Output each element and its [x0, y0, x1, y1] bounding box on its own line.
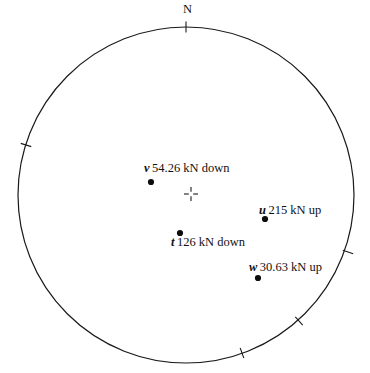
azimuth-tick-group — [21, 22, 353, 359]
data-point-dot-v[interactable] — [148, 179, 154, 185]
data-point-value-v: 54.26 kN down — [152, 161, 229, 175]
circle-group — [18, 27, 354, 363]
data-point-value-w: 30.63 kN up — [260, 260, 322, 274]
data-point-label-u: u215 kN up — [259, 204, 321, 217]
direction-label-north: N — [183, 3, 192, 16]
data-point-value-u: 215 kN up — [268, 203, 321, 217]
data-point-id-w: w — [249, 260, 260, 274]
data-point-value-t: 126 kN down — [177, 235, 245, 249]
data-point-dot-w[interactable] — [255, 275, 261, 281]
data-point-label-v: v54.26 kN down — [144, 162, 230, 175]
data-point-label-t: t126 kN down — [171, 236, 245, 249]
stereonet-canvas — [0, 0, 370, 373]
data-point-id-v: v — [144, 161, 152, 175]
data-point-label-w: w30.63 kN up — [249, 261, 322, 274]
primitive-circle — [18, 27, 354, 363]
center-cross-group — [184, 187, 198, 201]
stereonet-figure: N v54.26 kN downu215 kN upt126 kN downw3… — [0, 0, 370, 373]
